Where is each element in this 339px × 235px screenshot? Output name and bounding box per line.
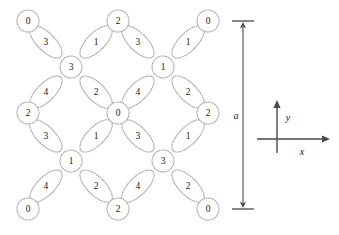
lattice-hub-outline — [60, 150, 82, 172]
lattice-node: 2 — [197, 102, 219, 124]
lattice-hub-outline — [152, 56, 174, 78]
lattice-node-outline — [17, 102, 39, 124]
lattice-constant-dimension: a — [231, 21, 254, 209]
lattice-node-outline — [107, 102, 129, 124]
lattice-hub: 3 — [60, 56, 82, 78]
y-axis-label: y — [285, 112, 291, 123]
lattice-node: 0 — [17, 10, 39, 32]
lattice-node: 0 — [107, 102, 129, 124]
lattice-constant-label: a — [234, 110, 239, 121]
lattice-node: 2 — [17, 102, 39, 124]
lattice-hub-outline — [152, 150, 174, 172]
lattice-node-outline — [17, 198, 39, 220]
x-axis-arrowhead — [322, 135, 330, 142]
lattice-node-outline — [197, 102, 219, 124]
lattice-node-outline — [17, 10, 39, 32]
lattice-diagram: 3142314231423142 020202020 3113 a xy — [0, 0, 339, 235]
lattice-node: 0 — [17, 198, 39, 220]
lattice-hub: 3 — [152, 150, 174, 172]
lattice-node: 2 — [107, 10, 129, 32]
lattice-hub: 1 — [152, 56, 174, 78]
coordinate-axes: xy — [257, 100, 330, 157]
y-axis-arrowhead — [273, 100, 280, 108]
lattice-node-outline — [197, 10, 219, 32]
lattice-node: 2 — [107, 198, 129, 220]
lattice-node-outline — [107, 10, 129, 32]
lattice-node: 0 — [197, 10, 219, 32]
lattice-node: 0 — [197, 198, 219, 220]
lattice-hub: 1 — [60, 150, 82, 172]
lattice-node-outline — [107, 198, 129, 220]
lattice-node-outline — [197, 198, 219, 220]
lattice-hub-outline — [60, 56, 82, 78]
x-axis-label: x — [299, 146, 305, 157]
